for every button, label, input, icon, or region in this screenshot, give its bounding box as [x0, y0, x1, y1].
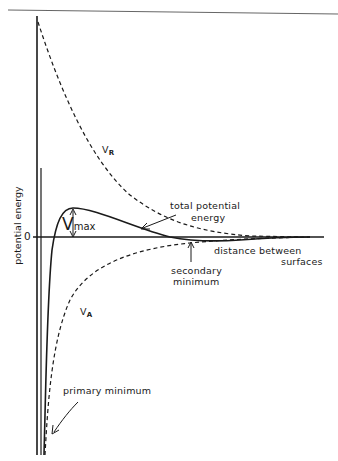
- secondary-minimum-label-1: secondary: [171, 265, 222, 276]
- x-axis-label-1: distance between: [214, 245, 302, 256]
- primary-minimum-label: primary minimum: [63, 385, 151, 396]
- secondary-minimum-label-2: minimum: [173, 276, 219, 287]
- x-axis-label-2: surfaces: [281, 256, 323, 267]
- primary-minimum-pointer: [54, 402, 78, 432]
- zero-label: 0: [24, 231, 31, 242]
- repulsive-label: VR: [102, 144, 114, 159]
- total-energy-label-2: energy: [191, 212, 225, 223]
- vmax-label-sub: max: [74, 221, 96, 232]
- repulsive-label-sub: R: [109, 149, 115, 157]
- dlvo-diagram: potential energy 0 VR VA total potential…: [0, 0, 338, 461]
- attractive-label-main: V: [80, 306, 87, 317]
- vmax-label: Vmax: [62, 214, 95, 234]
- repulsive-label-main: V: [102, 144, 109, 155]
- total-energy-pointer: [143, 215, 176, 228]
- attractive-label: VA: [80, 306, 92, 321]
- vmax-label-main: V: [62, 214, 74, 234]
- total-energy-label-1: total potential: [170, 200, 240, 211]
- y-axis-label: potential energy: [12, 186, 23, 264]
- diagram-canvas: [0, 0, 338, 461]
- attractive-label-sub: A: [87, 311, 93, 319]
- top-rule: [8, 10, 338, 14]
- repulsive-curve: [38, 22, 300, 237]
